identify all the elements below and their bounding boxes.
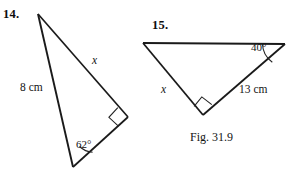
triangle-15-side-x: [143, 43, 203, 115]
figure-page: 14. 8 cm x 62° 15. x 13 cm 40° Fig. 31.9: [0, 0, 293, 173]
figure-15-number: 15.: [152, 18, 168, 33]
figure-14-side-label-8cm: 8 cm: [20, 81, 43, 93]
figure-14-side-label-x: x: [92, 54, 97, 66]
figure-15-side-label-x: x: [161, 83, 166, 95]
triangle-15-side-13cm: [203, 44, 285, 115]
figure-15-angle-label: 40°: [251, 41, 266, 53]
figure-14-angle-label: 62°: [76, 138, 91, 150]
figure-15-side-label-13cm: 13 cm: [239, 83, 267, 95]
triangle-14-right-angle-marker: [109, 108, 119, 127]
figure-caption: Fig. 31.9: [190, 130, 233, 145]
triangle-15: [143, 43, 285, 115]
triangle-15-right-angle-marker: [194, 97, 212, 106]
figure-14-number: 14.: [3, 7, 19, 22]
triangle-14-side-x: [38, 14, 128, 117]
triangle-14-side-8cm: [38, 14, 73, 167]
